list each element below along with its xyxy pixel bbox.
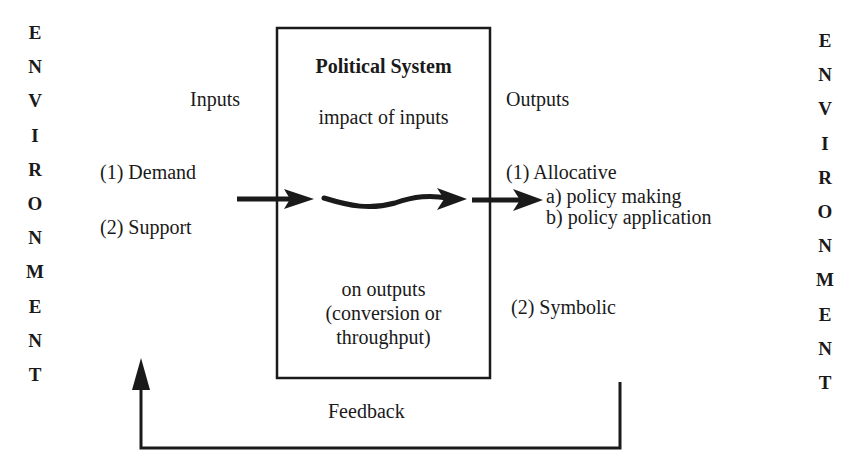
output-allocative: (1) Allocative [506, 161, 617, 184]
output-symbolic: (2) Symbolic [511, 296, 616, 319]
inputs-heading: Inputs [190, 88, 240, 111]
output-policy-making: a) policy making [546, 185, 682, 208]
system-line-outputs: on outputs [277, 278, 490, 301]
input-item-demand: (1) Demand [100, 161, 196, 184]
output-policy-application: b) policy application [546, 206, 712, 229]
system-line-throughput: throughput) [277, 326, 490, 349]
feedback-label: Feedback [328, 400, 405, 423]
system-title: Political System [277, 55, 490, 78]
input-item-support: (2) Support [100, 216, 192, 239]
system-line-conversion: (conversion or [277, 302, 490, 325]
feedback-arrow-head [132, 358, 150, 390]
outputs-heading: Outputs [506, 88, 569, 111]
conversion-wave-arrow [324, 196, 448, 206]
system-line-impact: impact of inputs [277, 106, 490, 129]
